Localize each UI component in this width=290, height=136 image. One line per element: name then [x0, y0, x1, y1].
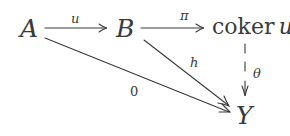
node-b: B — [116, 16, 134, 41]
label-zero: 0 — [130, 85, 138, 98]
commutative-diagram: A B coker u Y u π h 0 θ — [0, 0, 290, 136]
arrow-a-to-y — [45, 38, 230, 112]
arrow-b-to-coker — [141, 24, 204, 32]
label-theta: θ — [253, 67, 261, 80]
node-coker-u: coker u — [212, 16, 290, 38]
coker-word: coker — [212, 14, 274, 39]
arrow-b-to-y — [144, 40, 229, 106]
node-a: A — [20, 16, 38, 41]
label-pi: π — [180, 9, 189, 22]
coker-variable: u — [279, 14, 290, 39]
node-y: Y — [236, 103, 253, 128]
arrow-coker-to-y — [242, 44, 248, 96]
label-u: u — [71, 12, 79, 25]
label-h: h — [190, 56, 198, 69]
